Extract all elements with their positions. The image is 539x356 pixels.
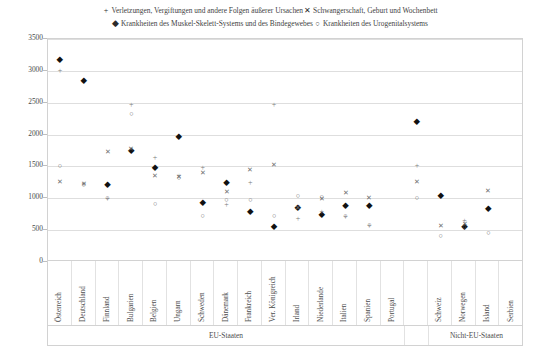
category-axis-cell: Spanien — [357, 261, 381, 325]
data-point-cross: ✕ — [81, 180, 87, 187]
gridline — [48, 39, 522, 40]
data-point-plus: + — [248, 179, 253, 187]
data-point-circle: ○ — [224, 198, 228, 205]
category-axis-label: Niederlande — [317, 287, 325, 322]
data-point-circle: ○ — [439, 233, 443, 240]
data-point-circle: ○ — [415, 195, 419, 202]
data-point-circle: ○ — [105, 195, 109, 202]
category-axis-cell: Schweden — [191, 261, 215, 325]
category-axis-cell: Belgien — [143, 261, 167, 325]
data-point-diamond: ◆ — [485, 204, 492, 213]
category-axis-label: Belgien — [150, 300, 158, 322]
circle-marker-icon: ○ — [313, 19, 322, 28]
category-axis-label: Österreich — [55, 292, 63, 322]
group-axis: EU-StaatenNicht-EU-Staaten — [47, 326, 523, 346]
category-axis-cell: Ver. Königreich — [262, 261, 286, 325]
data-point-diamond: ◆ — [342, 201, 349, 210]
data-point-diamond: ◆ — [80, 76, 87, 85]
data-point-plus: + — [129, 101, 134, 109]
category-axis-cell: Finnland — [96, 261, 120, 325]
data-point-plus: + — [272, 101, 277, 109]
plot-area: ◆◆◆◆◆◆◆◆◆◆◆◆◆◆◆◆◆◆++++++++++++++++○○○○○○… — [47, 38, 523, 261]
gridline — [48, 103, 522, 104]
data-point-plus: + — [415, 162, 420, 170]
data-point-circle: ○ — [296, 193, 300, 200]
data-point-circle: ○ — [58, 163, 62, 170]
data-point-diamond: ◆ — [152, 163, 159, 172]
group-axis-label — [405, 326, 429, 345]
category-axis-cell: Serbien — [499, 261, 522, 325]
data-point-cross: ✕ — [485, 188, 491, 195]
data-point-cross: ✕ — [57, 179, 63, 186]
category-axis-cell: Island — [476, 261, 500, 325]
category-axis-cell: Frankreich — [238, 261, 262, 325]
y-axis-tick-label: 500 — [2, 225, 43, 233]
data-point-diamond: ◆ — [57, 55, 64, 64]
data-point-cross: ✕ — [462, 221, 468, 228]
data-point-circle: ○ — [367, 223, 371, 230]
gridline — [48, 71, 522, 72]
category-axis-label: Dänemark — [222, 292, 230, 322]
category-axis-cell: Deutschland — [72, 261, 96, 325]
category-axis-cell: Schweiz — [428, 261, 452, 325]
category-axis-label: Italien — [340, 304, 348, 322]
category-axis-label: Spanien — [364, 299, 372, 322]
y-axis-tick-label: 2000 — [2, 130, 43, 138]
scatter-chart: + Verletzungen, Vergiftungen und andere … — [0, 0, 539, 356]
data-point-plus: + — [58, 67, 63, 75]
data-point-circle: ○ — [201, 214, 205, 221]
gridline — [48, 198, 522, 199]
data-point-diamond: ◆ — [271, 221, 278, 230]
y-axis-tick-label: 0 — [2, 257, 43, 265]
data-point-circle: ○ — [343, 213, 347, 220]
data-point-diamond: ◆ — [247, 207, 254, 216]
category-axis-label: Deutschland — [79, 286, 87, 322]
category-axis-cell — [404, 261, 428, 325]
data-point-diamond: ◆ — [437, 191, 444, 200]
data-point-cross: ✕ — [438, 222, 444, 229]
data-point-diamond: ◆ — [414, 117, 421, 126]
category-axis-cell: Irland — [286, 261, 310, 325]
y-axis-tick-label: 1000 — [2, 193, 43, 201]
data-point-circle: ○ — [153, 202, 157, 209]
data-point-cross: ✕ — [176, 173, 182, 180]
y-axis-tick-label: 3500 — [2, 34, 43, 42]
gridline — [48, 135, 522, 136]
data-point-diamond: ◆ — [199, 198, 206, 207]
data-point-cross: ✕ — [319, 195, 325, 202]
data-point-cross: ✕ — [128, 146, 134, 153]
data-point-plus: + — [319, 208, 324, 216]
y-axis-tick-label: 3000 — [2, 66, 43, 74]
data-point-plus: + — [296, 215, 301, 223]
legend-label-pregnancy: Schwangerschaft, Geburt und Wochenbett — [313, 6, 437, 15]
category-axis-cell: Ungarn — [167, 261, 191, 325]
category-axis-label: Frankreich — [245, 291, 253, 322]
legend-row-2: ◆ Krankheiten des Muskel-Skelett-Systems… — [0, 17, 539, 30]
chart-legend: + Verletzungen, Vergiftungen und andere … — [0, 4, 539, 30]
data-point-cross: ✕ — [271, 161, 277, 168]
legend-entry-injuries: + Verletzungen, Vergiftungen und andere … — [101, 6, 303, 15]
category-axis-label: Serbien — [507, 300, 515, 322]
category-axis: ÖsterreichDeutschlandFinnlandBulgarienBe… — [47, 261, 523, 326]
legend-label-injuries: Verletzungen, Vergiftungen und andere Fo… — [111, 6, 303, 15]
data-point-cross: ✕ — [105, 148, 111, 155]
legend-entry-urogenital: ○ Krankheiten des Urogenitalsystems — [313, 19, 428, 28]
category-axis-cell: Österreich — [48, 261, 72, 325]
legend-label-musculoskeletal: Krankheiten des Muskel-Skelett-Systems u… — [121, 19, 313, 28]
gridline — [48, 166, 522, 167]
data-point-diamond: ◆ — [223, 178, 230, 187]
legend-row-1: + Verletzungen, Vergiftungen und andere … — [0, 4, 539, 17]
legend-label-urogenital: Krankheiten des Urogenitalsystems — [323, 19, 428, 28]
data-point-circle: ○ — [486, 230, 490, 237]
data-point-cross: ✕ — [414, 178, 420, 185]
data-point-plus: + — [153, 154, 158, 162]
category-axis-cell: Portugal — [381, 261, 405, 325]
data-point-circle: ○ — [248, 197, 252, 204]
group-axis-label: Nicht-EU-Staaten — [429, 326, 524, 345]
y-axis-tick-label: 1500 — [2, 161, 43, 169]
data-point-diamond: ◆ — [176, 132, 183, 141]
category-axis-label: Bulgarien — [127, 294, 135, 322]
category-axis-label: Ver. Königreich — [269, 276, 277, 322]
data-point-cross: ✕ — [295, 205, 301, 212]
data-point-diamond: ◆ — [104, 179, 111, 188]
